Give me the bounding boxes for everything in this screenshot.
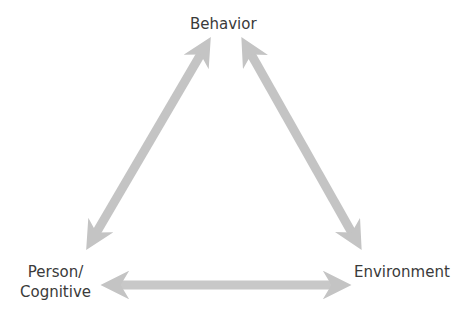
node-environment: Environment: [354, 262, 450, 282]
arrow-behavior-environment: [247, 47, 356, 240]
node-person-line1: Person/: [20, 262, 91, 282]
node-person-line2: Cognitive: [20, 282, 91, 302]
arrow-person-behavior: [92, 47, 205, 240]
node-person-cognitive: Person/ Cognitive: [20, 262, 91, 302]
node-behavior: Behavior: [190, 14, 257, 34]
